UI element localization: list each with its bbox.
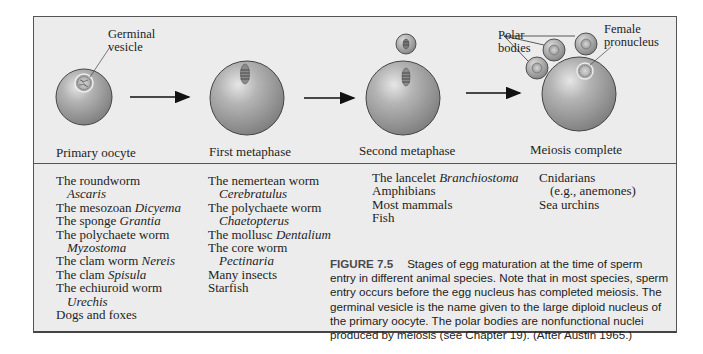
female-pronucleus-label: Female pronucleus: [604, 23, 659, 49]
first-metaphase-cell: [210, 61, 284, 135]
species-column-primary-oocyte: The roundwormAscarisThe mesozoan Dicyema…: [56, 174, 181, 321]
second-metaphase-cell: [366, 34, 440, 135]
species-list-item: Fish: [372, 211, 519, 224]
germinal-vesicle-label: Germinal vesicle: [108, 28, 155, 54]
species-list-item: The echiuroid worm: [56, 281, 181, 294]
species-list-item: Sea urchins: [539, 198, 636, 211]
species-list-item: Dogs and foxes: [56, 308, 181, 321]
germinal-vesicle-leader-line: [90, 47, 110, 77]
species-list-item: Myzostoma: [56, 241, 181, 254]
species-list-item: Cnidarians: [539, 171, 636, 184]
stage-label-meiosis-complete: Meiosis complete: [530, 142, 622, 158]
species-list-item: Pectinaria: [208, 254, 331, 267]
species-list-item: Starfish: [208, 281, 331, 294]
stage-label-primary-oocyte: Primary oocyte: [56, 145, 136, 161]
species-list-item: The roundworm: [56, 174, 181, 187]
species-list-item: Many insects: [208, 268, 331, 281]
species-list-item: (e.g., anemones): [539, 184, 636, 197]
species-list-item: The clam worm Nereis: [56, 254, 181, 267]
species-list-item: The clam Spisula: [56, 268, 181, 281]
species-list-item: The core worm: [208, 241, 331, 254]
species-list-item: Amphibians: [372, 184, 519, 197]
species-list-item: The mesozoan Dicyema: [56, 201, 181, 214]
figure-number: FIGURE 7.5: [330, 257, 393, 270]
divider: [34, 163, 676, 164]
species-list-item: Ascaris: [56, 187, 181, 200]
species-list-item: The mollusc Dentalium: [208, 228, 331, 241]
species-list-item: The polychaete worm: [56, 228, 181, 241]
meiosis-complete-cell: [526, 33, 616, 131]
species-list-item: Most mammals: [372, 198, 519, 211]
species-list-item: The polychaete worm: [208, 201, 331, 214]
species-list-item: Chaetopterus: [208, 214, 331, 227]
stage-label-second-metaphase: Second metaphase: [359, 143, 455, 159]
stage-label-first-metaphase: First metaphase: [209, 144, 291, 160]
species-list-item: The sponge Grantia: [56, 214, 181, 227]
species-list-item: The nemertean worm: [208, 174, 331, 187]
species-column-first-metaphase: The nemertean wormCerebratulusThe polych…: [208, 174, 331, 295]
species-column-second-metaphase: The lancelet BranchiostomaAmphibiansMost…: [372, 171, 519, 225]
primary-oocyte-cell: [56, 69, 112, 125]
metaphase-spindle: [241, 64, 250, 84]
species-column-meiosis-complete: Cnidarians(e.g., anemones)Sea urchins: [539, 171, 636, 211]
metaphase-spindle: [402, 68, 410, 86]
species-list-item: Urechis: [56, 295, 181, 308]
figure-caption: FIGURE 7.5Stages of egg maturation at th…: [330, 257, 670, 342]
species-list-item: The lancelet Branchiostoma: [372, 171, 519, 184]
figure-box: Germinal vesicle Polar bodies Female pro…: [33, 16, 677, 333]
polar-bodies-label: Polar bodies: [498, 29, 531, 55]
species-list-item: Cerebratulus: [208, 187, 331, 200]
